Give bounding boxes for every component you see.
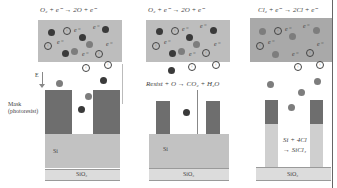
electron-label: e⁻ bbox=[93, 23, 99, 30]
mask-block-left bbox=[265, 100, 278, 124]
ion-icon: + bbox=[256, 42, 264, 50]
electron-label: e⁻ bbox=[268, 38, 274, 45]
neutral-atom bbox=[210, 27, 217, 34]
reaction-si-etch-product: → SiCl₄ bbox=[283, 146, 306, 154]
ion-icon: + bbox=[104, 61, 112, 69]
mask-remnant-right bbox=[206, 101, 220, 134]
mask-block-right bbox=[93, 90, 120, 134]
neutral-atom bbox=[272, 51, 279, 58]
electron-label: e⁻ bbox=[57, 38, 63, 45]
mask-remnant-left bbox=[156, 101, 170, 134]
mask-label: Mask bbox=[8, 101, 21, 107]
ion-icon: + bbox=[171, 27, 179, 35]
field-label: E bbox=[35, 72, 39, 78]
neutral-atom bbox=[186, 34, 193, 41]
ion-trajectory bbox=[85, 93, 92, 100]
neutral-atom bbox=[193, 41, 200, 48]
ion-trajectory bbox=[100, 77, 107, 84]
equation-o2-dissociation: O₂ + e⁻ → 2O + e⁻ bbox=[40, 6, 97, 14]
ion-trajectory bbox=[56, 80, 63, 87]
neutral-atom bbox=[156, 28, 163, 35]
electron-label: e⁻ bbox=[182, 25, 188, 32]
ion-trajectory bbox=[298, 89, 305, 96]
electron-label: e⁻ bbox=[317, 40, 323, 47]
electron-label: e⁻ bbox=[106, 40, 112, 47]
sio2-label: SiO₂ bbox=[183, 171, 194, 177]
silicon-layer bbox=[149, 134, 229, 168]
mask-label-sub: (photoresist) bbox=[8, 108, 38, 114]
neutral-atom bbox=[178, 48, 185, 55]
equation-cl2-dissociation: Cl₂ + e⁻ → 2Cl + e⁻ bbox=[258, 6, 318, 14]
ion-icon: + bbox=[202, 49, 210, 57]
electron-label: e⁻ bbox=[82, 50, 88, 57]
arrow-down-icon bbox=[39, 84, 45, 88]
mask-block-right bbox=[310, 100, 323, 124]
electron-label: e⁻ bbox=[74, 26, 80, 33]
neutral-atom bbox=[313, 27, 320, 34]
electron-label: e⁻ bbox=[164, 38, 170, 45]
ion-icon: + bbox=[44, 42, 52, 50]
ion-trajectory bbox=[267, 81, 274, 88]
neutral-atom bbox=[169, 50, 176, 57]
ion-icon: + bbox=[63, 27, 71, 35]
ion-trajectory bbox=[288, 104, 295, 111]
equation-o2-dissociation: O₂ + e⁻ → 2O + e⁻ bbox=[148, 6, 205, 14]
neutral-atom bbox=[71, 48, 78, 55]
neutral-atom bbox=[259, 28, 266, 35]
neutral-atom bbox=[102, 26, 109, 33]
ion-icon: + bbox=[306, 49, 314, 57]
neutral-atom bbox=[289, 33, 296, 40]
sio2-label: SiO₂ bbox=[76, 171, 87, 177]
neutral-atom bbox=[79, 34, 86, 41]
ion-icon: + bbox=[274, 27, 282, 35]
silicon-pillar-right bbox=[310, 124, 323, 168]
divider-line bbox=[122, 64, 123, 104]
electron-label: e⁻ bbox=[214, 40, 220, 47]
right-border-line bbox=[332, 0, 333, 188]
ion-trajectory bbox=[78, 106, 85, 113]
neutral-atom bbox=[48, 29, 55, 36]
reaction-si-etch: Si + 4Cl bbox=[283, 136, 307, 144]
ion-icon: + bbox=[82, 64, 90, 72]
mask-block-left bbox=[45, 90, 72, 134]
silicon-label: Si bbox=[53, 148, 58, 154]
electron-label: e⁻ bbox=[292, 50, 298, 57]
ion-icon: + bbox=[95, 50, 103, 58]
electron-label: e⁻ bbox=[189, 50, 195, 57]
electron-label: e⁻ bbox=[303, 22, 309, 29]
electron-label: e⁻ bbox=[200, 22, 206, 29]
ion-icon: + bbox=[294, 63, 302, 71]
ion-trajectory bbox=[168, 67, 175, 74]
ion-trajectory bbox=[314, 78, 321, 85]
ion-icon: + bbox=[188, 63, 196, 71]
neutral-atom bbox=[62, 50, 69, 57]
ion-icon: + bbox=[152, 42, 160, 50]
silicon-pillar-left bbox=[265, 124, 278, 168]
resist-interface-line bbox=[197, 90, 198, 134]
ion-icon: + bbox=[212, 61, 220, 69]
electron-label: e⁻ bbox=[285, 25, 291, 32]
reaction-resist-ashing: Resist + O → CO₂ + H₂O bbox=[146, 80, 219, 88]
ion-trajectory bbox=[183, 109, 190, 116]
ion-icon: + bbox=[316, 61, 324, 69]
sio2-label: SiO₂ bbox=[287, 171, 298, 177]
neutral-atom bbox=[86, 41, 93, 48]
silicon-label: Si bbox=[163, 146, 168, 152]
